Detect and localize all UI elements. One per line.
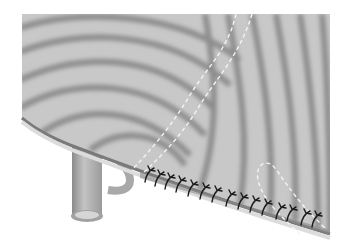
- surgical-illustration: [0, 0, 352, 252]
- tissue-flap: [20, 14, 330, 238]
